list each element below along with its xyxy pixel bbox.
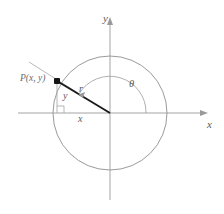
point-p-marker <box>54 78 60 84</box>
point-p-label: P(x, y) <box>20 74 45 84</box>
x-axis-arrowhead <box>200 110 208 116</box>
polar-coordinate-figure: y x P(x, y) r θ y x <box>0 0 224 214</box>
diagram-canvas <box>0 0 224 214</box>
y-component-label: y <box>63 91 67 101</box>
right-angle-marker <box>57 106 64 113</box>
angle-arc <box>79 76 146 113</box>
radius-label: r <box>79 84 83 94</box>
x-axis-label: x <box>207 119 212 130</box>
x-component-label: x <box>78 114 82 124</box>
y-axis-label: y <box>103 13 108 24</box>
angle-theta-label: θ <box>129 79 134 90</box>
